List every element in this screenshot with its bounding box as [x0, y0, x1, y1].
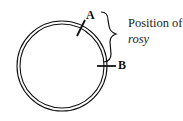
inner-ring [20, 24, 104, 108]
position-caption: Position of rosy [128, 15, 183, 47]
label-point-b: B [118, 59, 126, 71]
label-point-a: A [86, 9, 95, 21]
double-ring [17, 21, 107, 111]
caption-line-1: Position of [128, 16, 183, 30]
marker-a-tick [77, 20, 85, 36]
curly-brace [101, 12, 116, 62]
outer-ring [17, 21, 107, 111]
caption-line-2: rosy [128, 31, 183, 47]
